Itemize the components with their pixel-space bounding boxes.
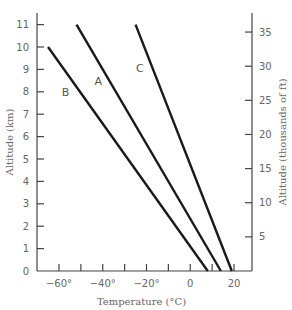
y-right-tick-label: 30 — [259, 61, 272, 72]
series-line-B — [48, 47, 208, 271]
x-tick-label: −40° — [90, 278, 116, 289]
temperature-altitude-chart: 012345678910115101520253035−60°−40°−20°0… — [0, 0, 292, 310]
y-right-tick-label: 35 — [259, 27, 272, 38]
y-axis-title: Altitude (km) — [4, 108, 15, 176]
y-right-tick-label: 15 — [259, 163, 272, 174]
series-label-A: A — [95, 75, 103, 88]
y-tick-label: 11 — [16, 19, 29, 30]
y-axis-right-title: Altitude (thousands of ft) — [277, 78, 288, 206]
y-right-tick-label: 25 — [259, 95, 272, 106]
y-tick-label: 6 — [23, 131, 29, 142]
y-tick-label: 5 — [23, 154, 29, 165]
y-tick-label: 4 — [23, 176, 29, 187]
y-tick-label: 8 — [23, 86, 29, 97]
y-right-tick-label: 5 — [259, 231, 265, 242]
y-tick-label: 3 — [23, 198, 29, 209]
y-tick-label: 7 — [23, 109, 29, 120]
y-tick-label: 9 — [23, 64, 29, 75]
y-tick-label: 2 — [23, 221, 29, 232]
x-tick-label: −20° — [133, 278, 159, 289]
series-label-C: C — [136, 62, 144, 75]
y-tick-label: 0 — [23, 266, 29, 277]
x-tick-label: 20 — [228, 278, 241, 289]
x-tick-label: −60° — [46, 278, 72, 289]
y-tick-label: 1 — [23, 243, 29, 254]
y-right-tick-label: 20 — [259, 129, 272, 140]
y-tick-label: 10 — [16, 42, 29, 53]
series-line-A — [77, 25, 221, 271]
x-tick-label: 0 — [187, 278, 193, 289]
y-right-tick-label: 10 — [259, 197, 272, 208]
x-axis-title: Temperature (°C) — [97, 296, 186, 307]
series-label-B: B — [62, 86, 70, 99]
